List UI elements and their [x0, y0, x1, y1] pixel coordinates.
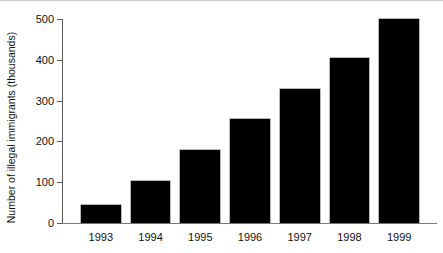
- bar: [180, 150, 220, 223]
- bar: [230, 119, 270, 223]
- x-axis-line: [62, 223, 437, 224]
- y-tick-mark: [57, 223, 62, 224]
- y-tick-mark: [57, 60, 62, 61]
- y-tick-label: 100: [36, 176, 54, 188]
- bar: [131, 181, 171, 223]
- plot-area: 0100200300400500 19931994199519961997199…: [62, 15, 437, 227]
- y-tick-mark: [57, 182, 62, 183]
- y-tick-mark: [57, 101, 62, 102]
- y-axis-line: [62, 19, 63, 223]
- x-tick-label: 1994: [138, 231, 162, 243]
- bar: [81, 205, 121, 223]
- y-tick-label: 300: [36, 95, 54, 107]
- y-tick-label: 0: [48, 217, 54, 229]
- y-axis-title: Number of illegal immigrants (thousands): [0, 1, 22, 253]
- x-tick-label: 1997: [287, 231, 311, 243]
- x-tick-label: 1996: [238, 231, 262, 243]
- x-tick-label: 1999: [387, 231, 411, 243]
- y-tick-label: 400: [36, 54, 54, 66]
- y-tick-mark: [57, 141, 62, 142]
- x-tick-label: 1995: [188, 231, 212, 243]
- y-tick-mark: [57, 19, 62, 20]
- x-tick-label: 1993: [89, 231, 113, 243]
- x-tick-label: 1998: [337, 231, 361, 243]
- bar: [330, 58, 370, 223]
- bar-chart-figure: Number of illegal immigrants (thousands)…: [0, 0, 443, 253]
- bar: [379, 19, 419, 223]
- y-tick-label: 200: [36, 135, 54, 147]
- y-tick-label: 500: [36, 13, 54, 25]
- bar: [280, 89, 320, 223]
